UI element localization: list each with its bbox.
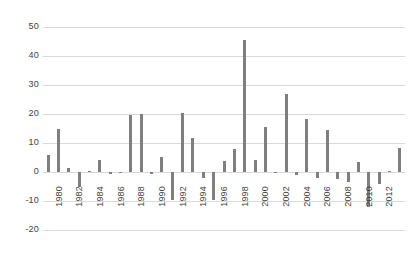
bar xyxy=(109,172,112,174)
y-axis-tick-label: 30 xyxy=(5,80,39,89)
x-axis-tick-label: 1996 xyxy=(219,186,229,207)
x-axis-tick-label: 1988 xyxy=(136,186,146,207)
bar xyxy=(336,172,339,179)
y-axis-tick-label: 40 xyxy=(5,51,39,60)
bar xyxy=(264,127,267,172)
y-axis-tick-label: 20 xyxy=(5,109,39,118)
bar xyxy=(140,114,143,172)
y-axis-tick-label: 50 xyxy=(5,22,39,31)
bar xyxy=(295,172,298,175)
bar xyxy=(181,113,184,172)
bar xyxy=(316,172,319,178)
x-axis-tick-label: 2004 xyxy=(302,186,312,207)
y-axis-tick-label: 10 xyxy=(5,138,39,147)
x-axis-tick-label: 1982 xyxy=(74,186,84,207)
bar xyxy=(57,129,60,172)
bar xyxy=(305,119,308,172)
y-axis-tick-label: 0 xyxy=(5,167,39,176)
y-axis-tick-label: -10 xyxy=(5,196,39,205)
bar xyxy=(119,172,122,173)
bar xyxy=(254,160,257,172)
bar xyxy=(223,161,226,172)
bar xyxy=(378,172,381,184)
x-axis-tick-label: 2008 xyxy=(343,186,353,207)
x-axis-tick-labels: 1980198219841986198819901992199419961998… xyxy=(43,186,405,246)
bar xyxy=(285,94,288,172)
bar xyxy=(398,148,401,172)
bar xyxy=(388,171,391,172)
x-axis-tick-label: 2006 xyxy=(322,186,332,207)
bar xyxy=(78,172,81,187)
bar-chart: 50403020100-10-20 1980198219841986198819… xyxy=(0,0,414,270)
x-axis-tick-label: 1984 xyxy=(95,186,105,207)
bar xyxy=(150,172,153,174)
x-axis-tick-label: 1980 xyxy=(54,186,64,207)
bar xyxy=(326,130,329,172)
y-axis-tick-labels: 50403020100-10-20 xyxy=(0,27,39,259)
bar xyxy=(347,172,350,182)
x-axis-tick-label: 1990 xyxy=(157,186,167,207)
x-axis-tick-label: 2000 xyxy=(260,186,270,207)
x-axis-tick-label: 1986 xyxy=(116,186,126,207)
bar xyxy=(274,172,277,173)
bar xyxy=(191,138,194,172)
bar xyxy=(47,155,50,172)
x-axis-tick-label: 2012 xyxy=(384,186,394,207)
bar xyxy=(129,115,132,172)
bar xyxy=(88,171,91,172)
bar xyxy=(202,172,205,178)
bar xyxy=(243,40,246,172)
x-axis-tick-label: 1998 xyxy=(240,186,250,207)
x-axis-tick-label: 2010 xyxy=(364,186,374,207)
x-axis-tick-label: 1992 xyxy=(178,186,188,207)
y-axis-tick-label: -20 xyxy=(5,225,39,234)
x-axis-tick-label: 2002 xyxy=(281,186,291,207)
x-axis-tick-label: 1994 xyxy=(198,186,208,207)
bar xyxy=(98,160,101,172)
bar xyxy=(233,149,236,172)
bar xyxy=(67,168,70,172)
bar xyxy=(357,162,360,172)
bar xyxy=(160,157,163,172)
